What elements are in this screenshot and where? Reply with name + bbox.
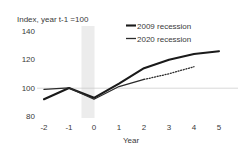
y-tick-label-140: 140 (22, 27, 36, 36)
x-tick-label-3: 3 (167, 123, 172, 132)
legend-label-2009-recession: 2009 recession (137, 22, 191, 31)
x-tick-label--2: -2 (40, 123, 48, 132)
x-tick-label-2: 2 (142, 123, 147, 132)
x-tick-label-4: 4 (192, 123, 197, 132)
x-tick-label--1: -1 (65, 123, 73, 132)
line-chart: Index, year t-1 =100 140 120 100 80 -2 -… (0, 0, 244, 149)
y-tick-label-120: 120 (22, 55, 36, 64)
y-tick-label-100: 100 (22, 84, 36, 93)
x-axis-title: Year (123, 136, 140, 145)
chart-figure: Index, year t-1 =100 140 120 100 80 -2 -… (0, 0, 244, 149)
x-tick-label-0: 0 (92, 123, 97, 132)
x-tick-label-1: 1 (117, 123, 122, 132)
legend-label-2020-recession: 2020 recession (137, 35, 191, 44)
series-line-2020-projection (144, 67, 194, 80)
recession-band (82, 26, 95, 118)
series-line-2009-recession (44, 51, 219, 99)
chart-subtitle: Index, year t-1 =100 (17, 15, 89, 24)
y-tick-label-80: 80 (26, 112, 35, 121)
x-tick-label-5: 5 (217, 123, 222, 132)
